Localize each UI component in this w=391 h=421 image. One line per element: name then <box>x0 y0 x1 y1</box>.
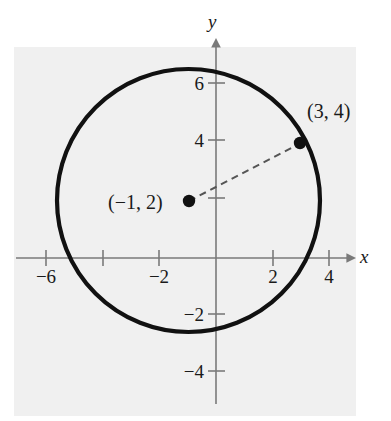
x-axis-label: x <box>360 247 368 266</box>
y-tick-label-4: 4 <box>180 131 204 150</box>
circle-point-dot <box>294 137 306 149</box>
circle-graph-figure: x y −6 −2 2 4 6 4 −2 −4 (−1, 2) (3, 4) <box>0 0 391 421</box>
center-point-label: (−1, 2) <box>108 192 163 212</box>
y-tick-label-minus4: −4 <box>172 362 204 381</box>
center-point-dot <box>183 195 195 207</box>
radius-dashed-line <box>189 144 299 201</box>
y-tick-label-6: 6 <box>180 74 204 93</box>
circle-point-label: (3, 4) <box>307 101 350 121</box>
y-axis-label: y <box>208 12 216 31</box>
y-tick-label-minus2: −2 <box>172 305 204 324</box>
x-tick-label-4: 4 <box>317 267 341 286</box>
x-tick-label-2: 2 <box>261 267 285 286</box>
x-tick-label-minus2: −2 <box>143 267 175 286</box>
graph-canvas <box>0 0 391 421</box>
x-tick-label-minus6: −6 <box>30 267 62 286</box>
